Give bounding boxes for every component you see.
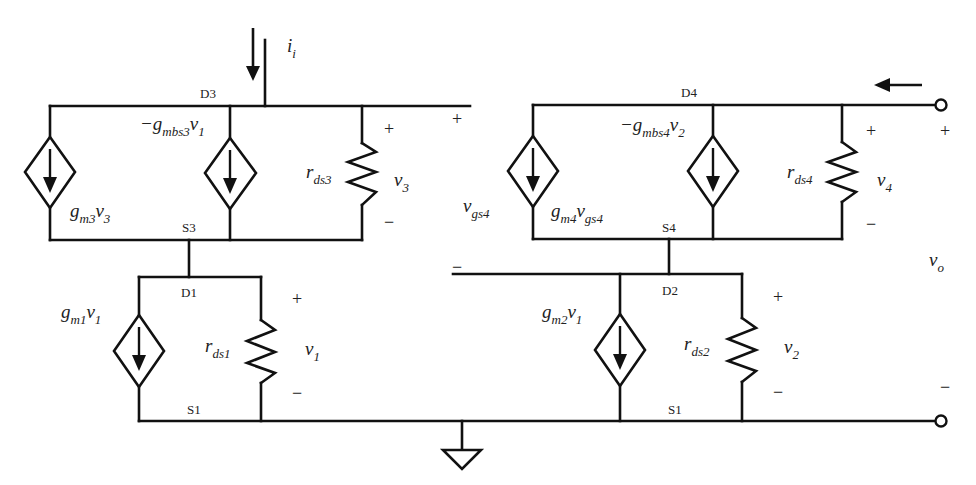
dependent-current-source-icon <box>114 315 164 387</box>
vgs4-label: vgs4 <box>463 196 490 220</box>
v4-label: v4 <box>877 170 892 194</box>
gm1-source-label: gm1v1 <box>61 302 101 326</box>
m3-block <box>50 40 470 240</box>
gm3-source-label: gm3v3 <box>70 201 110 225</box>
dependent-current-source-icon <box>25 137 75 208</box>
vgs4-plus-sign: + <box>452 110 462 128</box>
v2-plus-sign: + <box>773 288 783 306</box>
vo-label: vo <box>929 250 944 274</box>
node-s3-label: S3 <box>182 221 196 234</box>
v3-plus-sign: + <box>384 120 394 138</box>
output-terminal-positive[interactable] <box>936 100 947 111</box>
v2-minus-sign: − <box>773 383 783 401</box>
v1-label: v1 <box>305 339 320 363</box>
rds4-label: rds4 <box>787 162 812 186</box>
dependent-current-source-icon <box>205 138 256 209</box>
node-d1-label: D1 <box>181 286 197 299</box>
v4-plus-sign: + <box>866 122 876 140</box>
v1-plus-sign: + <box>292 290 302 308</box>
vo-minus-sign: − <box>940 378 950 396</box>
vo-plus-sign: + <box>940 122 950 140</box>
rds1-label: rds1 <box>205 336 230 360</box>
resistor-icon <box>247 320 275 383</box>
v2-label: v2 <box>784 337 799 361</box>
vgs4-minus-sign: − <box>452 258 462 276</box>
node-d3-label: D3 <box>200 87 216 100</box>
dependent-current-source-icon <box>595 314 645 386</box>
rds2-label: rds2 <box>684 334 709 358</box>
gm2-source-label: gm2v1 <box>542 302 582 326</box>
dependent-current-source-icon <box>688 136 738 207</box>
node-s4-label: S4 <box>662 221 676 234</box>
input-current-arrow-icon <box>246 28 260 81</box>
output-terminal-negative[interactable] <box>936 416 947 427</box>
gmbs4-source-label: −gmbs4v2 <box>620 115 685 139</box>
node-s1-right-label: S1 <box>668 403 682 416</box>
input-current-label: ii <box>287 36 296 60</box>
ground-icon <box>443 421 481 469</box>
node-d2-label: D2 <box>662 284 678 297</box>
rds3-label: rds3 <box>306 162 331 186</box>
gm4-source-label: gm4vgs4 <box>551 201 603 225</box>
v3-label: v3 <box>394 170 409 194</box>
resistor-icon <box>348 143 376 205</box>
node-d4-label: D4 <box>681 86 697 99</box>
v4-minus-sign: − <box>866 215 876 233</box>
resistor-icon <box>828 142 856 202</box>
gmbs3-source-label: −gmbs3v1 <box>140 114 205 138</box>
node-s1-left-label: S1 <box>187 403 201 416</box>
resistor-icon <box>728 318 756 382</box>
v1-minus-sign: − <box>292 384 302 402</box>
dependent-current-source-icon <box>508 136 558 207</box>
v3-minus-sign: − <box>384 213 394 231</box>
output-current-arrow-icon <box>874 78 922 92</box>
circuit-schematic <box>0 0 976 485</box>
